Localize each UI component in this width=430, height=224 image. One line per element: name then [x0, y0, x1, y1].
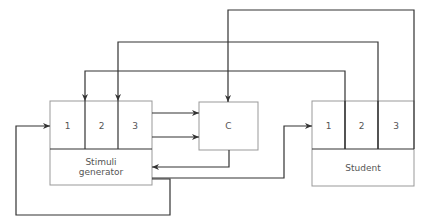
stim-cell-1: 1 [50, 121, 85, 131]
student-cell-2: 2 [345, 121, 378, 131]
diagram-canvas [0, 0, 430, 224]
stimuli-generator-label: Stimuli generator [68, 157, 134, 177]
comparator-label: C [199, 121, 258, 131]
arrow-stim-to-student [152, 126, 312, 178]
feedback-line-student1-to-stim2 [85, 71, 345, 149]
stim-cell-3: 3 [118, 121, 152, 131]
stim-cell-2: 2 [85, 121, 118, 131]
student-cell-1: 1 [312, 121, 345, 131]
student-label: Student [312, 163, 414, 173]
student-box [312, 101, 414, 186]
student-cell-3: 3 [378, 121, 414, 131]
feedback-line-student2-to-stim3 [118, 42, 378, 149]
arrow-c-to-stim [152, 150, 229, 167]
